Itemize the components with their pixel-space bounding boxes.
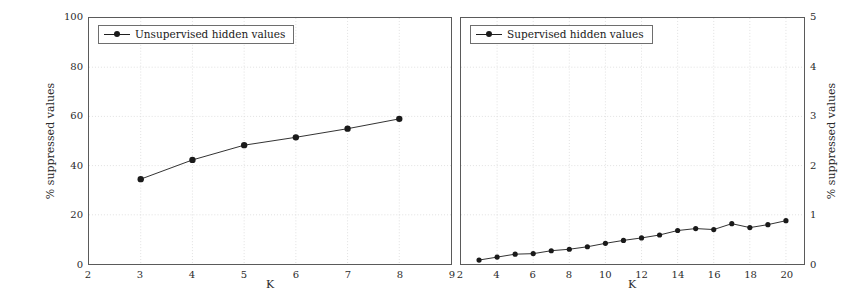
legend-marker-line-icon bbox=[104, 30, 130, 39]
plot-area-left bbox=[88, 17, 452, 265]
y-axis-label-left: % suppressed values bbox=[44, 83, 57, 199]
y-axis-label-right: % suppressed values bbox=[825, 83, 838, 199]
y-tick-label: 80 bbox=[70, 62, 88, 72]
legend-label-unsupervised: Unsupervised hidden values bbox=[135, 29, 285, 40]
x-tick-label: 2 bbox=[85, 270, 91, 280]
y-tick-label: 20 bbox=[70, 210, 88, 220]
legend-marker-line-icon bbox=[476, 30, 502, 39]
x-tick-label: 6 bbox=[529, 270, 535, 280]
x-tick-label: 10 bbox=[599, 270, 612, 280]
x-tick-label: 20 bbox=[780, 270, 793, 280]
x-tick-label: 2 bbox=[457, 270, 463, 280]
plot-area-right bbox=[460, 17, 805, 265]
y-tick-label: 60 bbox=[70, 111, 88, 121]
legend-left[interactable]: Unsupervised hidden values bbox=[98, 25, 294, 44]
x-tick-label: 5 bbox=[241, 270, 247, 280]
figure-two-line-charts: 020406080100 23456789 K % suppressed val… bbox=[0, 0, 861, 302]
y-tick-label: 0 bbox=[805, 260, 816, 270]
y-tick-label: 3 bbox=[805, 111, 816, 121]
x-tick-label: 12 bbox=[635, 270, 648, 280]
x-tick-label: 14 bbox=[672, 270, 685, 280]
legend-label-supervised: Supervised hidden values bbox=[507, 29, 644, 40]
y-tick-label: 4 bbox=[805, 62, 816, 72]
y-tick-label: 5 bbox=[805, 12, 816, 22]
x-tick-label: 8 bbox=[397, 270, 403, 280]
x-axis-label-right: K bbox=[628, 278, 636, 291]
y-tick-label: 2 bbox=[805, 161, 816, 171]
x-tick-label: 18 bbox=[744, 270, 757, 280]
x-axis-label-left: K bbox=[266, 278, 274, 291]
x-tick-label: 8 bbox=[566, 270, 572, 280]
y-tick-label: 100 bbox=[64, 12, 88, 22]
x-tick-label: 7 bbox=[345, 270, 351, 280]
x-tick-label: 16 bbox=[708, 270, 721, 280]
chart-panel-unsupervised: 020406080100 23456789 K % suppressed val… bbox=[0, 0, 440, 302]
y-tick-label: 1 bbox=[805, 210, 816, 220]
x-tick-label: 4 bbox=[493, 270, 499, 280]
series-unsupervised-hidden-values bbox=[89, 18, 451, 264]
legend-right[interactable]: Supervised hidden values bbox=[470, 25, 653, 44]
x-tick-label: 6 bbox=[293, 270, 299, 280]
x-tick-label: 4 bbox=[189, 270, 195, 280]
series-supervised-hidden-values bbox=[461, 18, 804, 264]
x-tick-label: 3 bbox=[137, 270, 143, 280]
y-tick-label: 40 bbox=[70, 161, 88, 171]
chart-panel-supervised: 012345 2468101214161820 K % suppressed v… bbox=[440, 0, 861, 302]
